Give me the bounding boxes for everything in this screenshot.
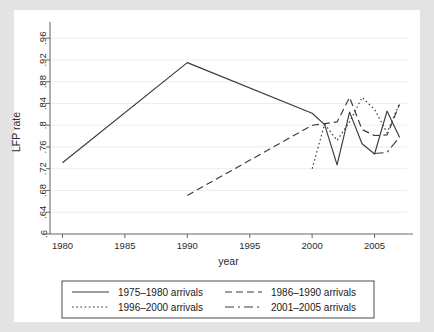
x-tick-label-2: 1990	[177, 240, 198, 251]
x-tick-label-0: 1980	[52, 240, 73, 251]
y-tick-label-7: .88	[38, 75, 49, 88]
y-tick-label-5: .8	[38, 121, 49, 129]
legend-label-2: 1996–2000 arrivals	[118, 302, 203, 313]
x-axis-title: year	[218, 255, 239, 267]
y-tick-label-9: .96	[38, 32, 49, 45]
legend-label-0: 1975–1980 arrivals	[118, 287, 203, 298]
x-tick-labels-group: 198019851990199520002005	[52, 240, 385, 251]
y-axis-title-text: LFP rate	[10, 112, 22, 152]
x-tick-label-4: 2000	[302, 240, 323, 251]
tick-marks-group	[46, 38, 375, 238]
series-line-2	[312, 97, 399, 168]
y-tick-label-6: .84	[38, 97, 49, 110]
axes-group	[50, 22, 413, 234]
series-line-0	[62, 63, 399, 165]
series-group	[62, 63, 399, 196]
y-tick-labels-group: .6.64.68.72.76.8.84.88.92.96	[38, 32, 49, 238]
y-axis-title: LFP rate	[10, 112, 22, 152]
y-tick-label-2: .68	[38, 184, 49, 197]
gridlines-group	[50, 38, 407, 234]
y-tick-label-4: .76	[38, 140, 49, 153]
y-tick-label-8: .92	[38, 53, 49, 66]
y-tick-label-1: .64	[38, 206, 49, 219]
legend-label-3: 2001–2005 arrivals	[271, 302, 356, 313]
x-axis-title-text: year	[218, 255, 239, 267]
line-chart: .6.64.68.72.76.8.84.88.92.96 19801985199…	[0, 0, 434, 332]
x-tick-label-3: 1995	[239, 240, 260, 251]
legend-label-1: 1986–1990 arrivals	[271, 287, 356, 298]
x-tick-label-5: 2005	[364, 240, 385, 251]
x-tick-label-1: 1985	[114, 240, 135, 251]
legend: 1975–1980 arrivals1986–1990 arrivals1996…	[62, 281, 374, 318]
screenshot-root: .6.64.68.72.76.8.84.88.92.96 19801985199…	[0, 0, 434, 332]
series-line-1	[187, 97, 399, 195]
y-tick-label-3: .72	[38, 162, 49, 175]
y-tick-label-0: .6	[38, 230, 49, 238]
